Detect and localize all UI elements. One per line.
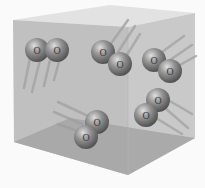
box-front-left-face	[13, 20, 128, 175]
box-front-right-face	[128, 13, 195, 175]
gas-container-diagram: O O O O O O O O O O	[0, 0, 205, 188]
